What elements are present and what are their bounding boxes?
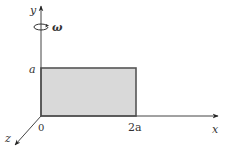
diagram-canvas: y ω a 0 2a x z: [0, 0, 227, 154]
z-axis-label: z: [4, 132, 11, 145]
x-tick-2a: 2a: [128, 121, 142, 134]
origin-label: 0: [38, 122, 44, 133]
rectangular-plate: [41, 68, 136, 116]
x-axis-label: x: [212, 123, 219, 136]
y-axis-label: y: [29, 4, 37, 17]
omega-label: ω: [52, 21, 63, 34]
y-tick-a: a: [29, 63, 36, 76]
